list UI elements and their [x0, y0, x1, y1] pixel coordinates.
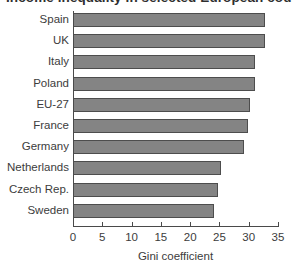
- x-tick: [278, 222, 279, 227]
- category-label: Germany: [1, 141, 69, 153]
- bar-france: [73, 119, 248, 133]
- bar-chart: SpainUKItalyPolandEU-27FranceGermanyNeth…: [0, 0, 292, 273]
- category-label: Czech Rep.: [1, 184, 69, 196]
- category-label: UK: [1, 35, 69, 47]
- x-tick: [73, 222, 74, 227]
- x-tick: [219, 222, 220, 227]
- category-label: Sweden: [1, 205, 69, 217]
- bar-sweden: [73, 204, 214, 218]
- bar-uk: [73, 34, 265, 48]
- category-label: Spain: [1, 14, 69, 26]
- bar-spain: [73, 13, 265, 27]
- x-tick: [190, 222, 191, 227]
- category-label: EU-27: [1, 99, 69, 111]
- x-tick: [249, 222, 250, 227]
- category-label: France: [1, 120, 69, 132]
- category-label: Netherlands: [1, 162, 69, 174]
- bar-poland: [73, 77, 255, 91]
- bar-eu-27: [73, 98, 250, 112]
- x-tick-label: 35: [258, 232, 292, 244]
- x-axis-title: Gini coefficient: [73, 250, 278, 262]
- x-tick: [132, 222, 133, 227]
- x-tick: [161, 222, 162, 227]
- bar-italy: [73, 55, 255, 69]
- x-tick: [102, 222, 103, 227]
- category-label: Italy: [1, 56, 69, 68]
- category-label: Poland: [1, 78, 69, 90]
- y-axis-line: [73, 11, 74, 226]
- bar-germany: [73, 140, 244, 154]
- bar-netherlands: [73, 161, 221, 175]
- bar-czech-rep: [73, 183, 218, 197]
